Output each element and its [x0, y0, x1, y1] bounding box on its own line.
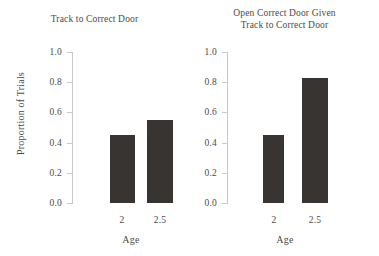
bar-age-2 — [263, 135, 284, 203]
y-tick-0.2 — [222, 173, 227, 174]
y-tick-label-0.8: 0.8 — [191, 77, 217, 87]
bar-age-2 — [110, 135, 135, 203]
y-tick-label-0.6: 0.6 — [36, 107, 62, 117]
y-tick-0.0 — [67, 203, 72, 204]
y-tick-0.6 — [222, 112, 227, 113]
y-tick-label-0.2: 0.2 — [36, 168, 62, 178]
y-tick-0.8 — [67, 82, 72, 83]
y-tick-label-0.8: 0.8 — [36, 77, 62, 87]
y-tick-label-0.0: 0.0 — [36, 198, 62, 208]
figure-bar-chart-pair: Track to Correct Door 0.0 0.2 0.4 0.6 0.… — [0, 0, 379, 256]
y-tick-label-1.0: 1.0 — [191, 47, 217, 57]
y-tick-label-0.2: 0.2 — [191, 168, 217, 178]
x-axis-title: Age — [235, 234, 335, 245]
y-tick-1.0 — [222, 52, 227, 53]
y-axis-line — [227, 52, 228, 204]
y-axis-title: Proportion of Trials — [15, 49, 26, 179]
y-tick-label-0.4: 0.4 — [36, 138, 62, 148]
y-tick-label-0.0: 0.0 — [191, 198, 217, 208]
y-tick-label-0.4: 0.4 — [191, 138, 217, 148]
x-tick-label-age-2.5: 2.5 — [140, 215, 180, 225]
y-tick-1.0 — [67, 52, 72, 53]
y-tick-0.0 — [222, 203, 227, 204]
y-tick-label-1.0: 1.0 — [36, 47, 62, 57]
y-tick-label-0.6: 0.6 — [191, 107, 217, 117]
bar-age-2.5 — [147, 120, 173, 203]
x-tick-label-age-2.5: 2.5 — [295, 215, 335, 225]
x-tick-label-age-2: 2 — [102, 215, 142, 225]
chart-panel-open-correct-door-given-track: Open Correct Door Given Track to Correct… — [190, 0, 379, 256]
x-axis-title: Age — [81, 234, 181, 245]
y-axis-line — [72, 52, 73, 204]
y-tick-0.6 — [67, 112, 72, 113]
y-tick-0.4 — [222, 143, 227, 144]
plot-area: 0.0 0.2 0.4 0.6 0.8 1.0 2 2.5 Age — [190, 0, 379, 256]
bar-age-2.5 — [302, 78, 328, 203]
y-tick-0.8 — [222, 82, 227, 83]
chart-panel-track-to-correct-door: Track to Correct Door 0.0 0.2 0.4 0.6 0.… — [0, 0, 189, 256]
plot-area: 0.0 0.2 0.4 0.6 0.8 1.0 Proportion of Tr… — [0, 0, 189, 256]
y-tick-0.2 — [67, 173, 72, 174]
x-tick-label-age-2: 2 — [254, 215, 294, 225]
y-tick-0.4 — [67, 143, 72, 144]
